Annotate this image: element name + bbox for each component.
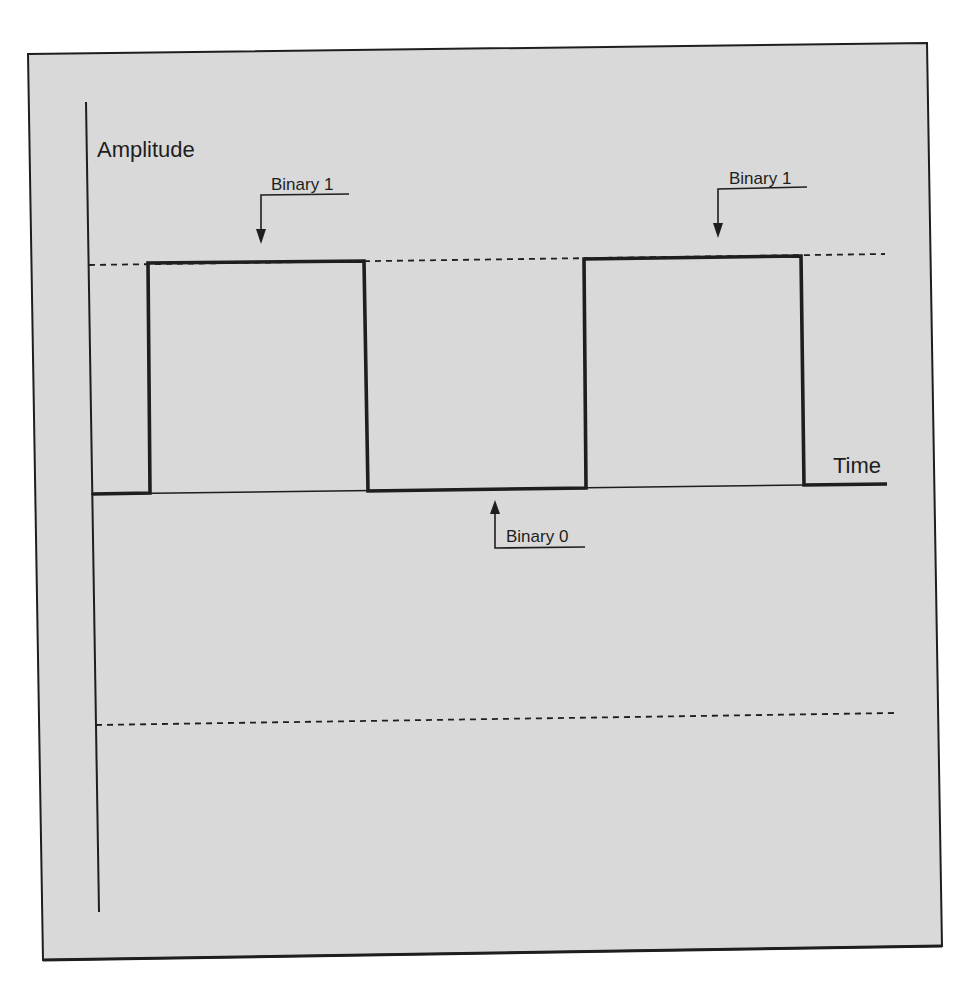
x-axis-label: Time (833, 453, 881, 478)
signal-diagram: Amplitude Time Binary 1 Binary 1 Binary … (0, 0, 971, 983)
callout-label: Binary 1 (729, 169, 791, 188)
y-axis-label: Amplitude (97, 137, 195, 162)
callout-label: Binary 0 (506, 527, 568, 546)
diagram-frame (28, 43, 942, 960)
callout-label: Binary 1 (271, 175, 333, 194)
